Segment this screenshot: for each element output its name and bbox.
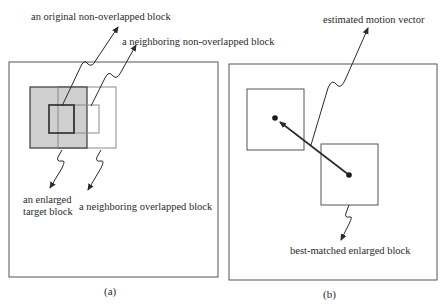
- pointer-enlarged-target: [50, 150, 64, 188]
- motion-vector-arrow: [280, 122, 349, 175]
- pointer-best-matched: [341, 205, 351, 240]
- pointer-neighbor-overlapped: [88, 150, 103, 190]
- caption-b: (b): [323, 288, 336, 301]
- reference-center-dot: [272, 115, 278, 121]
- label-enlarged-target-line2: target block: [23, 206, 73, 217]
- caption-a: (a): [104, 285, 117, 298]
- label-original-block: an original non-overlapped block: [31, 11, 171, 22]
- diagram-canvas: an original non-overlapped block a neigh…: [0, 0, 446, 307]
- panel-a: an original non-overlapped block a neigh…: [9, 11, 275, 298]
- label-neighbor-overlapped: a neighboring overlapped block: [79, 201, 213, 212]
- pointer-motion-vector: [311, 28, 368, 145]
- pointer-neighbor-non-overlapped: [91, 45, 136, 106]
- panel-b: estimated motion vector best-matched enl…: [229, 14, 437, 301]
- label-enlarged-target-line1: an enlarged: [23, 194, 72, 205]
- label-best-matched: best-matched enlarged block: [290, 245, 411, 256]
- enlarged-target-block: [30, 87, 87, 148]
- label-motion-vector: estimated motion vector: [323, 14, 425, 25]
- label-neighbor-non-overlapped: a neighboring non-overlapped block: [122, 36, 275, 47]
